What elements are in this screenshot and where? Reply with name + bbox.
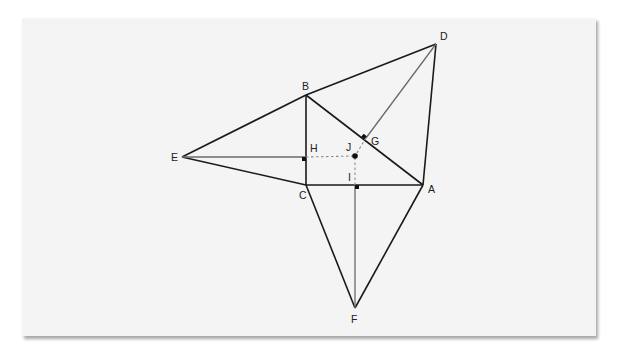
label-J: J — [346, 141, 351, 153]
right-angle-mark-I — [355, 185, 359, 189]
label-A: A — [428, 183, 435, 195]
segment-DA — [423, 44, 436, 185]
label-B: B — [302, 80, 309, 92]
label-C: C — [299, 189, 307, 201]
label-H: H — [310, 142, 318, 154]
label-I: I — [348, 171, 351, 183]
label-F: F — [351, 313, 357, 325]
point-J-dot — [352, 153, 358, 159]
point-labels: A B C D E F G H I J — [171, 30, 448, 325]
geometry-diagram: A B C D E F G H I J — [0, 0, 621, 358]
right-angle-mark-H — [302, 157, 306, 161]
segment-BE — [182, 95, 306, 157]
label-E: E — [171, 151, 178, 163]
segment-EC — [182, 157, 306, 185]
segment-CF — [306, 185, 355, 308]
label-G: G — [371, 135, 379, 147]
label-D: D — [440, 30, 448, 42]
segment-FA — [355, 185, 423, 308]
segment-HJ — [306, 156, 355, 157]
